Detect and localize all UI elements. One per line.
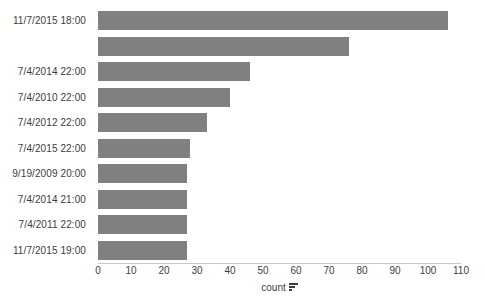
y-axis-label-row: 7/4/2010 22:00 — [0, 85, 92, 111]
x-axis-tick-label: 60 — [290, 265, 301, 276]
y-axis-tick-label: 7/4/2014 22:00 — [18, 66, 86, 77]
bar-chart: 11/7/2015 18:00 7/4/2014 22:00 7/4/2010 … — [0, 0, 485, 303]
y-axis-tick-label: 9/19/2009 20:00 — [12, 168, 86, 179]
y-axis-tick-label: 7/4/2015 22:00 — [18, 143, 86, 154]
plot-area — [98, 8, 461, 263]
x-axis-tick-label: 110 — [453, 265, 469, 276]
bar-row — [98, 187, 461, 213]
y-axis-tick-label: 11/7/2015 18:00 — [13, 15, 86, 26]
y-axis-label-row: 11/7/2015 19:00 — [0, 238, 92, 264]
y-axis-label-row: 7/4/2014 21:00 — [0, 187, 92, 213]
y-axis-labels: 11/7/2015 18:00 7/4/2014 22:00 7/4/2010 … — [0, 8, 92, 263]
x-axis-tick-label: 40 — [224, 265, 235, 276]
bar — [98, 62, 250, 81]
x-axis-tick-label: 70 — [323, 265, 334, 276]
x-axis-tick-label: 80 — [356, 265, 367, 276]
x-axis-tick-label: 50 — [257, 265, 268, 276]
bar — [98, 88, 230, 107]
sort-descending-icon — [289, 283, 298, 291]
y-axis-tick-label: 7/4/2014 21:00 — [18, 194, 86, 205]
x-axis-tick-label: 100 — [420, 265, 437, 276]
x-axis-tick-label: 0 — [95, 265, 101, 276]
bar-row — [98, 212, 461, 238]
y-axis-label-row — [0, 34, 92, 60]
x-axis-title-text: count — [261, 282, 285, 293]
x-axis-ticks: 0102030405060708090100110 — [98, 265, 461, 279]
bar — [98, 139, 190, 158]
bar-row — [98, 8, 461, 34]
bar — [98, 190, 187, 209]
y-axis-tick-label: 7/4/2011 22:00 — [19, 219, 86, 230]
x-axis-tick-label: 20 — [158, 265, 169, 276]
bar-row — [98, 161, 461, 187]
y-axis-tick-label: 11/7/2015 19:00 — [13, 245, 86, 256]
x-axis-tick-label: 10 — [125, 265, 136, 276]
y-axis-label-row: 11/7/2015 18:00 — [0, 8, 92, 34]
bar — [98, 164, 187, 183]
y-axis-label-row: 9/19/2009 20:00 — [0, 161, 92, 187]
x-axis-title: count — [98, 282, 461, 293]
y-axis-label-row: 7/4/2014 22:00 — [0, 59, 92, 85]
bar-row — [98, 238, 461, 264]
bar — [98, 241, 187, 260]
y-axis-tick-label: 7/4/2010 22:00 — [18, 92, 86, 103]
bar — [98, 11, 448, 30]
x-axis-tick-label: 30 — [191, 265, 202, 276]
bar — [98, 37, 349, 56]
bar-row — [98, 110, 461, 136]
bar-row — [98, 85, 461, 111]
y-axis-tick-label: 7/4/2012 22:00 — [18, 117, 86, 128]
x-axis-line — [98, 263, 461, 264]
y-axis-label-row: 7/4/2012 22:00 — [0, 110, 92, 136]
y-axis-label-row: 7/4/2011 22:00 — [0, 212, 92, 238]
y-axis-label-row: 7/4/2015 22:00 — [0, 136, 92, 162]
bar — [98, 113, 207, 132]
bar-row — [98, 136, 461, 162]
x-axis-tick-label: 90 — [389, 265, 400, 276]
bar — [98, 215, 187, 234]
bar-row — [98, 34, 461, 60]
bar-row — [98, 59, 461, 85]
